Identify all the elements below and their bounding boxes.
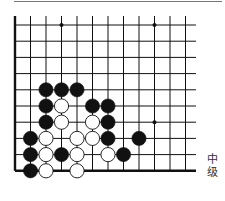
black-stone[interactable] bbox=[101, 115, 115, 129]
black-stone[interactable] bbox=[70, 83, 84, 97]
black-stone[interactable] bbox=[23, 148, 37, 162]
white-stone[interactable] bbox=[101, 148, 115, 162]
white-stone[interactable] bbox=[85, 115, 99, 129]
black-stone[interactable] bbox=[101, 131, 115, 145]
black-stone[interactable] bbox=[132, 131, 146, 145]
white-stone[interactable] bbox=[70, 164, 84, 178]
white-stone[interactable] bbox=[54, 99, 68, 113]
difficulty-level-label: 中级 bbox=[205, 153, 219, 179]
black-stone[interactable] bbox=[54, 83, 68, 97]
black-stone[interactable] bbox=[101, 99, 115, 113]
white-stone[interactable] bbox=[70, 148, 84, 162]
star-point bbox=[153, 23, 157, 27]
white-stone[interactable] bbox=[39, 131, 53, 145]
white-stone[interactable] bbox=[70, 131, 84, 145]
black-stone[interactable] bbox=[39, 115, 53, 129]
black-stone[interactable] bbox=[116, 148, 130, 162]
star-point bbox=[153, 120, 157, 124]
go-board bbox=[0, 0, 225, 201]
black-stone[interactable] bbox=[23, 131, 37, 145]
star-point bbox=[60, 23, 64, 27]
white-stone[interactable] bbox=[54, 115, 68, 129]
black-stone[interactable] bbox=[23, 164, 37, 178]
white-stone[interactable] bbox=[39, 148, 53, 162]
black-stone[interactable] bbox=[39, 99, 53, 113]
black-stone[interactable] bbox=[39, 83, 53, 97]
white-stone[interactable] bbox=[39, 164, 53, 178]
black-stone[interactable] bbox=[85, 99, 99, 113]
black-stone[interactable] bbox=[54, 148, 68, 162]
white-stone[interactable] bbox=[85, 131, 99, 145]
